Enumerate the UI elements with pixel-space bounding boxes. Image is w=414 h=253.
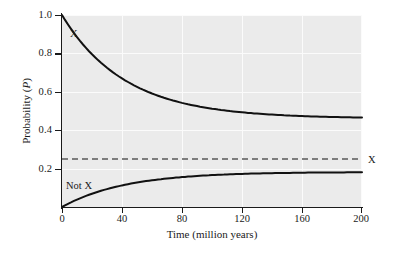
y-axis-title-prefix: Probability ( <box>20 89 32 144</box>
x-tick-label-200: 200 <box>341 213 381 224</box>
x-tick-label-160: 160 <box>282 213 322 224</box>
series-annotation-not-x: Not X <box>66 180 92 191</box>
x-tick-label-40: 40 <box>102 213 142 224</box>
x-tick-label-120: 120 <box>222 213 262 224</box>
series-line-x <box>62 15 362 118</box>
y-tick-0.8 <box>55 53 62 54</box>
y-axis-line <box>61 13 62 209</box>
series-line-not-x <box>62 172 362 207</box>
x-tick-label-80: 80 <box>162 213 202 224</box>
y-axis-title: Probability (P) <box>20 41 32 181</box>
y-tick-0.4 <box>55 130 62 131</box>
y-axis-title-symbol: P <box>20 82 32 89</box>
x-axis-line <box>61 207 363 208</box>
y-tick-0.2 <box>55 169 62 170</box>
y-axis-title-suffix: ) <box>20 78 32 82</box>
y-tick-1.0 <box>55 15 62 16</box>
y-tick-0.6 <box>55 92 62 93</box>
x-axis-title: Time (million years) <box>62 228 362 240</box>
x-tick-label-0: 0 <box>42 213 82 224</box>
y-tick-label-1.0: 1.0 <box>2 10 52 21</box>
chart-figure: 1.0 0.8 0.6 0.4 0.2 0 40 80 120 160 200 … <box>0 0 414 253</box>
series-annotation-x-right: X <box>368 154 376 165</box>
series-annotation-x-top: X <box>70 28 78 39</box>
